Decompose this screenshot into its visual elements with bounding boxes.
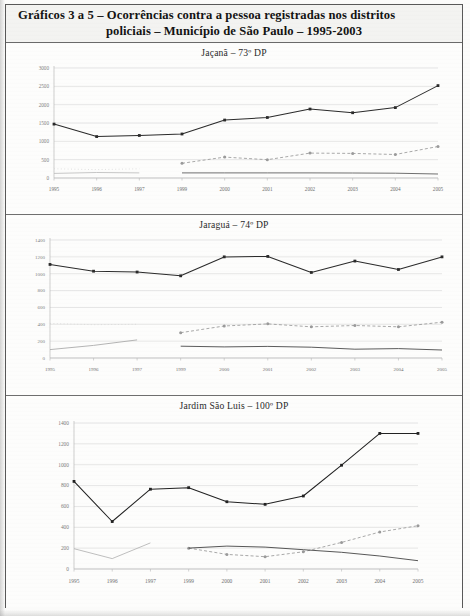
y-axis-tick-label: 1200 — [58, 441, 69, 447]
x-axis-tick-label: 1996 — [107, 578, 118, 584]
data-point-marker — [223, 119, 226, 122]
x-axis-tick-label: 1997 — [145, 578, 156, 584]
data-point-marker — [181, 162, 184, 165]
data-point-marker — [441, 255, 444, 258]
chart-title-jardim-sao-luis: Jardim São Luis – 100º DP — [6, 396, 462, 413]
page-title-line-1: Gráficos 3 a 5 – Ocorrências contra a pe… — [16, 8, 452, 24]
data-point-marker — [397, 325, 400, 328]
data-point-marker — [95, 135, 98, 138]
y-axis-tick-label: 200 — [38, 339, 46, 344]
y-axis-tick-label: 400 — [61, 524, 69, 530]
x-axis-tick-label: 2003 — [350, 367, 361, 372]
x-axis-tick-label: 2001 — [262, 186, 273, 192]
x-axis-tick-label: 2003 — [347, 186, 358, 192]
data-point-marker — [302, 550, 305, 553]
data-point-marker — [351, 152, 354, 155]
data-point-marker — [223, 324, 226, 327]
data-point-marker — [223, 156, 226, 159]
data-point-marker — [302, 495, 305, 498]
chart-plot-jaragua: 0200400600800100012001400199519961997199… — [6, 232, 462, 392]
y-axis-tick-label: 3000 — [39, 65, 50, 71]
series-line-serie-clara-inicial — [74, 543, 150, 559]
chart-title-jacana: Jaçanã – 73º DP — [6, 43, 462, 60]
data-point-marker — [264, 503, 267, 506]
x-axis-tick-label: 1995 — [45, 367, 56, 372]
y-axis-tick-label: 1000 — [39, 138, 50, 144]
y-axis-tick-label: 1400 — [58, 420, 69, 426]
data-point-marker — [353, 324, 356, 327]
y-axis-tick-label: 200 — [61, 545, 69, 551]
page-bottom-shadow — [0, 610, 470, 616]
y-axis-tick-label: 0 — [66, 566, 69, 572]
data-point-marker — [181, 133, 184, 136]
x-axis-tick-label: 1997 — [134, 186, 145, 192]
data-point-marker — [441, 321, 444, 324]
data-point-marker — [149, 488, 152, 491]
x-axis-tick-label: 2001 — [263, 367, 274, 372]
data-point-marker — [394, 153, 397, 156]
y-axis-tick-label: 600 — [38, 305, 46, 310]
x-axis-tick-label: 2005 — [433, 186, 444, 192]
x-axis-tick-label: 1995 — [69, 578, 80, 584]
data-point-marker — [266, 158, 269, 161]
page-title-line-2: policiais – Município de São Paulo – 199… — [16, 24, 452, 40]
document-header: Gráficos 3 a 5 – Ocorrências contra a pe… — [6, 5, 462, 43]
data-point-marker — [266, 322, 269, 325]
data-point-marker — [351, 111, 354, 114]
x-axis-tick-label: 2001 — [260, 578, 271, 584]
data-point-marker — [417, 432, 420, 435]
data-point-marker — [266, 255, 269, 258]
y-axis-tick-label: 0 — [46, 175, 49, 181]
x-axis-tick-label: 1999 — [176, 367, 187, 372]
data-point-marker — [264, 555, 267, 558]
series-line-serie-clara-inicial — [54, 173, 139, 174]
series-line-serie-principal — [74, 433, 418, 521]
y-axis-tick-label: 2000 — [39, 102, 50, 108]
x-axis-tick-label: 1999 — [183, 578, 194, 584]
y-axis-tick-label: 400 — [38, 322, 46, 327]
series-line-serie-inferior-escura — [182, 173, 438, 174]
x-axis-tick-label: 2002 — [298, 578, 309, 584]
y-axis-tick-label: 0 — [43, 356, 46, 361]
x-axis-tick-label: 2005 — [413, 578, 424, 584]
y-axis-tick-label: 500 — [41, 157, 49, 163]
data-point-marker — [179, 274, 182, 277]
data-point-marker — [179, 331, 182, 334]
chart-panel-jaragua: Jaraguá – 74º DP 02004006008001000120014… — [6, 215, 462, 396]
x-axis-tick-label: 2004 — [393, 367, 404, 372]
data-point-marker — [225, 553, 228, 556]
y-axis-tick-label: 600 — [61, 503, 69, 509]
x-axis-tick-label: 2004 — [374, 578, 385, 584]
chart-panel-jardim-sao-luis: Jardim São Luis – 100º DP 02004006008001… — [6, 396, 462, 608]
y-axis-tick-label: 1400 — [35, 238, 46, 243]
data-point-marker — [394, 106, 397, 109]
y-axis-tick-label: 800 — [38, 288, 46, 293]
series-line-serie-clara-pontilhada — [54, 169, 139, 170]
page-title: Gráficos 3 a 5 – Ocorrências contra a pe… — [16, 8, 452, 39]
series-line-serie-inferior-escura — [181, 346, 442, 350]
data-point-marker — [136, 271, 139, 274]
data-point-marker — [310, 325, 313, 328]
document-page: Gráficos 3 a 5 – Ocorrências contra a pe… — [0, 0, 470, 616]
x-axis-tick-label: 1999 — [177, 186, 188, 192]
y-axis-tick-label: 2500 — [39, 83, 50, 89]
data-point-marker — [340, 541, 343, 544]
series-line-serie-tracejada — [182, 147, 438, 164]
data-point-marker — [92, 270, 95, 273]
data-point-marker — [378, 530, 381, 533]
x-axis-tick-label: 2000 — [219, 186, 230, 192]
data-point-marker — [187, 486, 190, 489]
x-axis-tick-label: 2002 — [305, 186, 316, 192]
data-point-marker — [397, 268, 400, 271]
x-axis-tick-label: 1996 — [89, 367, 100, 372]
x-axis-tick-label: 2003 — [336, 578, 347, 584]
y-axis-tick-label: 1000 — [58, 462, 69, 468]
data-point-marker — [73, 480, 76, 483]
series-line-serie-principal — [54, 86, 438, 137]
data-point-marker — [266, 116, 269, 119]
data-point-marker — [417, 524, 420, 527]
x-axis-tick-label: 2002 — [306, 367, 317, 372]
chart-title-jaragua: Jaraguá – 74º DP — [6, 215, 462, 232]
data-point-marker — [111, 520, 114, 523]
data-point-marker — [138, 134, 141, 137]
